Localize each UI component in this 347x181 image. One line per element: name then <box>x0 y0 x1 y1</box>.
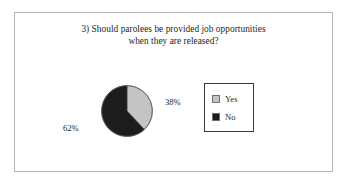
chart-legend: Yes No <box>204 83 254 132</box>
chart-title-line-2: when they are released? <box>15 35 332 47</box>
pie-label-yes: 38% <box>165 97 181 107</box>
chart-title: 3) Should parolees be provided job oppor… <box>15 23 332 47</box>
legend-label-no: No <box>225 113 236 122</box>
legend-item-no: No <box>212 108 253 126</box>
plot-area: 38% 62% Yes No <box>15 71 332 167</box>
legend-swatch-yes <box>212 95 220 103</box>
chart-title-line-1: 3) Should parolees be provided job oppor… <box>15 23 332 35</box>
figure-frame: 3) Should parolees be provided job oppor… <box>14 12 333 172</box>
legend-label-yes: Yes <box>225 95 238 104</box>
pie-label-no: 62% <box>63 123 79 133</box>
pie-chart-container <box>95 79 159 143</box>
legend-swatch-no <box>212 113 220 121</box>
legend-item-yes: Yes <box>212 90 253 108</box>
pie-chart <box>95 79 159 143</box>
